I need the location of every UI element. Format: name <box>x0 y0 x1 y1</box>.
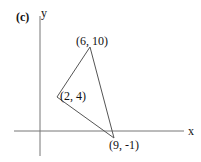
x-axis-label: x <box>188 124 194 138</box>
vertex-label-top: (6, 10) <box>76 34 108 48</box>
triangle-diagram: (c) y x (6, 10) (2, 4) (9, -1) <box>0 0 201 162</box>
vertex-label-left: (2, 4) <box>60 89 86 103</box>
vertex-label-bottom: (9, -1) <box>109 138 139 152</box>
panel-label: (c) <box>16 10 29 24</box>
y-axis-label: y <box>41 6 47 20</box>
